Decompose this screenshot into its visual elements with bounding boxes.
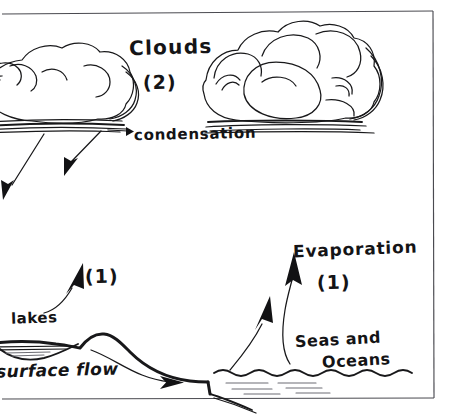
- cloud-left-shape: [0, 43, 139, 133]
- cloud-right-shape: [203, 21, 383, 133]
- label-condensation: condensation: [134, 125, 257, 144]
- water-cycle-diagram: Clouds (2) condensation Evaporation (1) …: [0, 0, 449, 419]
- sea-wavy-surface: [214, 370, 412, 394]
- evaporation-arrow: [230, 296, 273, 370]
- precipitation-arrow: [1, 134, 44, 200]
- lakes-evaporation-arrow: [44, 263, 84, 313]
- label-evaporation-number: (1): [317, 272, 351, 294]
- lake-basin: [0, 344, 78, 359]
- label-clouds-number: (2): [143, 72, 177, 94]
- precipitation-arrow: [64, 131, 101, 176]
- label-lakes-number: (1): [85, 266, 119, 288]
- label-lakes: lakes: [11, 309, 58, 327]
- label-surface-flow: surface flow: [0, 360, 119, 382]
- label-seas-line2: Oceans: [322, 350, 391, 371]
- label-clouds: Clouds: [129, 35, 213, 60]
